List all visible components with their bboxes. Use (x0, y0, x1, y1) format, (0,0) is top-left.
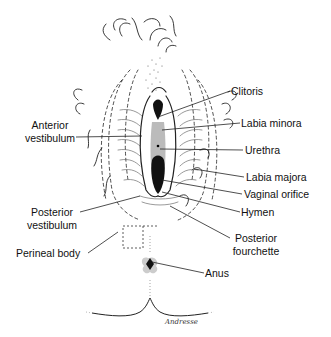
label-perineal-body: Perineal body (16, 247, 80, 260)
gluteal-cleft (92, 298, 208, 316)
label-urethra: Urethra (245, 144, 280, 157)
leader-anterior-vestibulum (76, 136, 142, 137)
vaginal-orifice-shape (151, 156, 165, 195)
perineal-body-outline (123, 226, 143, 248)
label-posterior-fourchette-line1: Posterior (226, 232, 286, 245)
label-labia-majora: Labia majora (246, 171, 307, 184)
leader-anus (152, 262, 204, 273)
leader-perineal-body (88, 232, 118, 253)
artist-signature: Andresse (165, 318, 198, 326)
label-posterior-vestibulum-line1: Posterior (20, 206, 84, 219)
urethra-dot (157, 145, 160, 148)
label-posterior-fourchette-line2: fourchette (226, 245, 286, 258)
leader-posterior-fourchette (170, 206, 230, 238)
label-clitoris: Clitoris (231, 85, 263, 98)
leader-posterior-vestibulum (80, 196, 140, 212)
label-vaginal-orifice: Vaginal orifice (244, 188, 309, 201)
leader-hymen (162, 192, 240, 212)
label-anterior-vestibulum-line2: vestibulum (20, 132, 80, 145)
label-hymen: Hymen (241, 206, 274, 219)
label-labia-minora: Labia minora (241, 117, 302, 130)
leader-urethra (160, 149, 243, 150)
label-anterior-vestibulum: Anterior vestibulum (20, 119, 80, 145)
label-posterior-fourchette: Posterior fourchette (226, 232, 286, 258)
leader-vaginal-orifice (162, 180, 242, 194)
leader-clitoris (158, 91, 230, 117)
label-posterior-vestibulum-line2: vestibulum (20, 219, 84, 232)
clitoral-hood (152, 88, 166, 93)
label-anus: Anus (205, 267, 229, 280)
label-posterior-vestibulum: Posterior vestibulum (20, 206, 84, 232)
mons-stipple (146, 58, 163, 91)
illustration-drawing (0, 0, 331, 337)
label-anterior-vestibulum-line1: Anterior (20, 119, 80, 132)
anatomy-diagram: Clitoris Anterior vestibulum Labia minor… (0, 0, 331, 337)
leader-labia-minora (162, 123, 240, 130)
anus-shape (142, 258, 157, 274)
